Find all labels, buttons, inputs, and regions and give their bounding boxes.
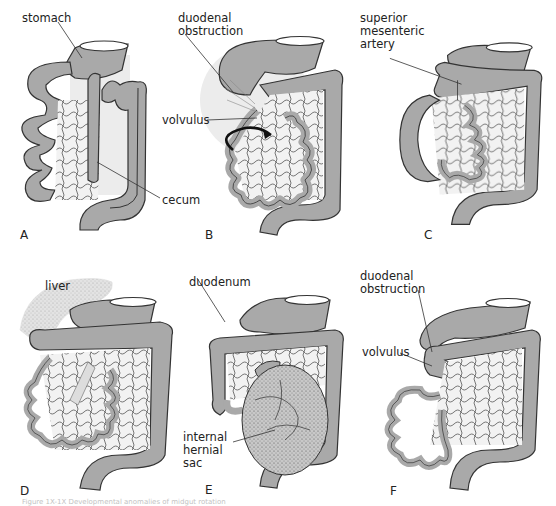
label-duodenal-obstruction: duodenal obstruction [178,12,243,38]
liver-malrotation-illustration [0,250,185,506]
panel-letter-d: D [20,484,29,498]
label-volvulus-f: volvulus [362,346,410,359]
panel-a: stomach cecum A [0,0,185,250]
label-liver: liver [45,280,70,293]
panel-c: superior mesenteric artery C [370,0,555,250]
label-superior-mesenteric-artery: superior mesenteric artery [360,12,424,51]
panel-letter-e: E [205,483,213,497]
panel-b: duodenal obstruction volvulus B [185,0,370,250]
panel-d: liver D [0,250,185,506]
label-stomach: stomach [22,12,71,25]
label-duodenum: duodenum [189,276,251,289]
panel-letter-a: A [20,228,28,242]
intestine-normal-illustration [0,0,185,250]
figure-caption: Figure 1X-1X Developmental anomalies of … [22,498,226,506]
label-volvulus: volvulus [162,114,210,127]
panel-f: duodenal obstruction volvulus F [370,250,556,506]
panel-letter-b: B [205,228,213,242]
label-internal-hernial-sac: internal hernial sac [183,431,227,470]
panel-e: duodenum internal hernial sac E [185,250,370,506]
panel-letter-c: C [424,228,432,242]
label-duodenal-obstruction-f: duodenal obstruction [360,270,425,296]
panel-letter-f: F [390,484,397,498]
